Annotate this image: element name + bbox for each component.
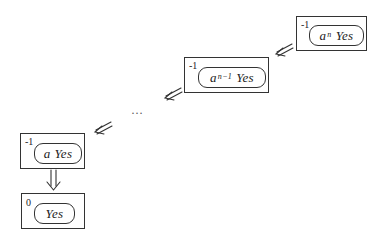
- node-an-1: -1 an−1Yes: [184, 57, 269, 93]
- node-word: Yes: [46, 206, 64, 222]
- node-base: a: [44, 146, 51, 162]
- node-label-pill: aYes: [34, 143, 82, 164]
- node-base: a: [320, 28, 327, 44]
- node-superscript: 0: [26, 197, 31, 208]
- node-exponent: n−1: [218, 72, 232, 81]
- node-superscript: -1: [301, 19, 309, 30]
- node-superscript: -1: [25, 136, 33, 147]
- double-arrow-icon: [276, 44, 293, 56]
- double-arrow-icon: [95, 122, 112, 134]
- node-yes: 0 Yes: [21, 193, 85, 229]
- node-exponent: n: [327, 30, 331, 39]
- node-an: -1 anYes: [296, 16, 367, 51]
- node-base: a: [210, 70, 217, 86]
- node-word: Yes: [55, 146, 73, 162]
- double-arrow-icon: [165, 88, 182, 100]
- node-label-pill: Yes: [34, 203, 75, 224]
- node-word: Yes: [336, 28, 354, 44]
- node-label-pill: anYes: [309, 25, 364, 46]
- node-label-pill: an−1Yes: [198, 67, 266, 88]
- node-superscript: -1: [189, 60, 197, 71]
- node-word: Yes: [236, 70, 254, 86]
- ellipsis: …: [131, 103, 145, 118]
- node-a: -1 aYes: [20, 133, 85, 169]
- double-arrow-down-icon: [47, 170, 60, 190]
